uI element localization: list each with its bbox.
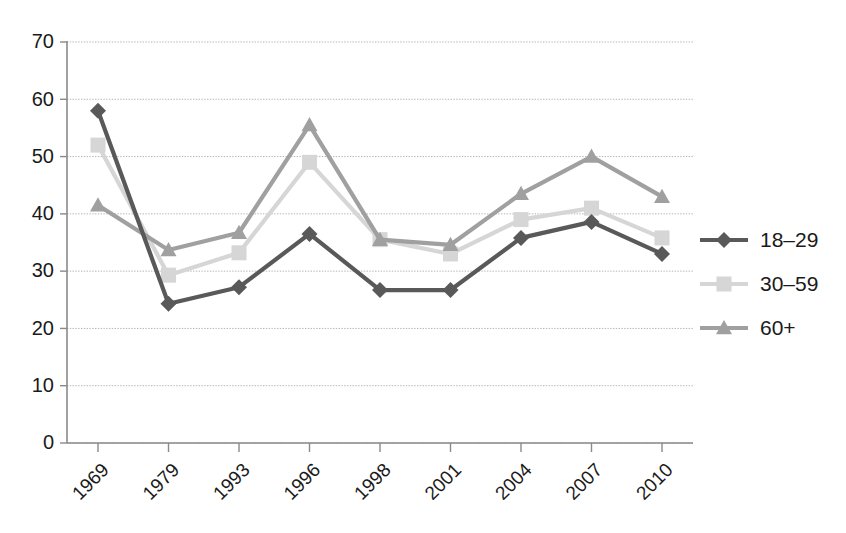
datapoint-18–29-2007 bbox=[584, 214, 600, 230]
datapoint-30–59-1979 bbox=[161, 268, 176, 283]
legend-label-60+: 60+ bbox=[760, 316, 796, 339]
datapoint-18–29-2010 bbox=[654, 246, 670, 262]
ytick-label-70: 70 bbox=[32, 30, 54, 52]
datapoint-18–29-1979 bbox=[161, 296, 177, 312]
series-18–29 bbox=[90, 103, 670, 312]
ytick-label-0: 0 bbox=[43, 431, 54, 453]
datapoint-18–29-1969 bbox=[90, 103, 106, 119]
datapoint-30–59-2004 bbox=[514, 212, 529, 227]
series-line-18–29 bbox=[98, 111, 662, 304]
legend: 18–2930–5960+ bbox=[700, 228, 818, 339]
ytick-label-40: 40 bbox=[32, 202, 54, 224]
chart-canvas: 0102030405060701969197919931996199820012… bbox=[0, 0, 846, 533]
legend-marker-30–59 bbox=[717, 277, 732, 292]
datapoint-30–59-2010 bbox=[655, 230, 670, 245]
ytick-label-50: 50 bbox=[32, 145, 54, 167]
datapoint-30–59-1996 bbox=[302, 155, 317, 170]
xtick-label-2010: 2010 bbox=[632, 459, 677, 504]
legend-marker-18–29 bbox=[716, 232, 732, 248]
ytick-label-30: 30 bbox=[32, 259, 54, 281]
datapoint-30–59-1993 bbox=[232, 245, 247, 260]
datapoint-60+-1969 bbox=[90, 197, 106, 211]
datapoint-30–59-1969 bbox=[91, 138, 106, 153]
xtick-label-2001: 2001 bbox=[421, 459, 466, 504]
ytick-label-10: 10 bbox=[32, 374, 54, 396]
ytick-label-20: 20 bbox=[32, 317, 54, 339]
datapoint-60+-1996 bbox=[302, 117, 318, 131]
xtick-label-1979: 1979 bbox=[139, 459, 184, 504]
xtick-label-1969: 1969 bbox=[68, 459, 113, 504]
line-chart: 0102030405060701969197919931996199820012… bbox=[0, 0, 846, 533]
datapoint-60+-2007 bbox=[584, 149, 600, 163]
datapoint-30–59-2007 bbox=[584, 201, 599, 216]
xtick-label-2004: 2004 bbox=[491, 459, 536, 504]
series-60+ bbox=[90, 117, 670, 256]
xtick-label-1996: 1996 bbox=[280, 459, 325, 504]
ytick-label-60: 60 bbox=[32, 88, 54, 110]
legend-label-18–29: 18–29 bbox=[760, 228, 818, 251]
legend-label-30–59: 30–59 bbox=[760, 272, 818, 295]
xtick-label-1993: 1993 bbox=[209, 459, 254, 504]
xtick-label-2007: 2007 bbox=[562, 459, 607, 504]
xtick-label-1998: 1998 bbox=[350, 459, 395, 504]
series-line-60+ bbox=[98, 125, 662, 250]
